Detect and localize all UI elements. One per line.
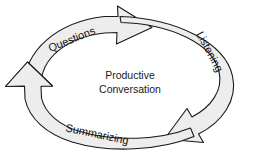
center-text-block: Productive Conversation (99, 69, 161, 95)
cycle-diagram: Questions Listening Summarizing Producti… (0, 0, 253, 165)
center-text-line2: Conversation (99, 83, 161, 95)
center-text-line1: Productive (105, 69, 155, 81)
cycle-diagram-canvas: Questions Listening Summarizing Producti… (0, 0, 253, 165)
segment-listening-label: Listening (194, 29, 225, 74)
segment-summarizing: Summarizing (6, 62, 195, 149)
